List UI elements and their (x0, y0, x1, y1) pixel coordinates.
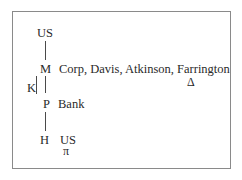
node-m-label: Corp, Davis, Atkinson, Farrington (59, 63, 230, 75)
edge-m-p (45, 76, 46, 93)
bracket-k-line (36, 76, 37, 94)
delta-symbol: Δ (187, 76, 195, 88)
edge-p-h (45, 112, 46, 131)
node-top-us: US (37, 27, 53, 39)
pi-symbol: π (63, 145, 69, 157)
node-h: H (40, 134, 49, 146)
node-m: M (40, 63, 51, 75)
edge-us-m (45, 41, 46, 60)
node-p-label: Bank (58, 98, 84, 110)
node-p: P (43, 98, 50, 110)
bracket-k-label: K (27, 82, 36, 94)
